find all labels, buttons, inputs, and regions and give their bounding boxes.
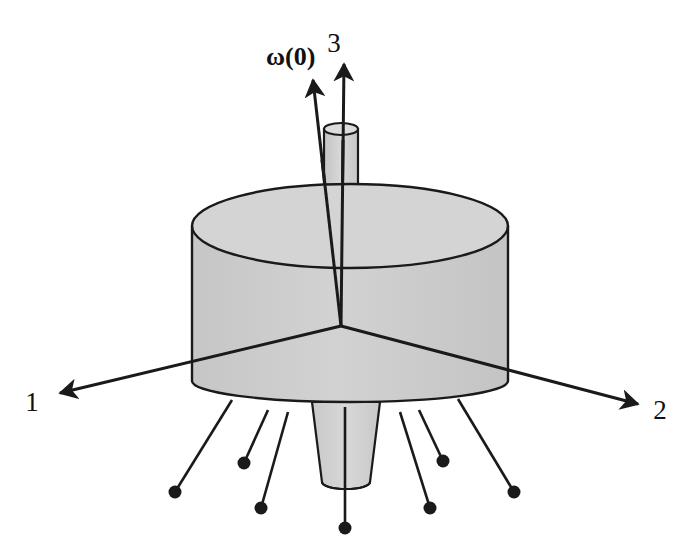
axis-1-label: 1: [25, 387, 39, 417]
top-shaft-cap: [324, 123, 358, 135]
pin-6: [419, 410, 450, 468]
omega-label: ω(0): [266, 42, 315, 71]
rigid-body-diagram: 3 1 2 ω(0): [0, 0, 699, 557]
diagram-canvas: 3 1 2 ω(0): [0, 0, 699, 557]
axis-3-label: 3: [327, 28, 341, 58]
pin-5: [400, 412, 437, 515]
pin-1: [169, 400, 233, 499]
pin-2: [238, 410, 269, 470]
cylinder-top-face: [192, 184, 508, 268]
pin-7: [458, 399, 521, 499]
axis-2-label: 2: [653, 395, 667, 425]
main-cylinder: [192, 184, 508, 402]
pin-wires-group: [169, 399, 521, 535]
